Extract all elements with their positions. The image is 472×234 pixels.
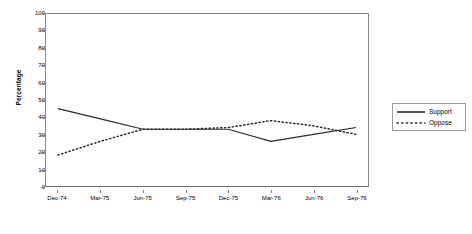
x-tick-mark xyxy=(314,190,315,193)
x-tick-label: Sep-76 xyxy=(333,195,381,202)
legend-item-support: Support xyxy=(396,107,462,117)
chart-legend: Support Oppose xyxy=(392,103,466,131)
legend-label-oppose: Oppose xyxy=(429,119,452,127)
x-tick-mark xyxy=(357,190,358,193)
x-tick-label: Dec-75 xyxy=(204,195,252,202)
x-tick-mark xyxy=(143,190,144,193)
x-tick-label: Jun-76 xyxy=(290,195,338,202)
solid-line-icon xyxy=(396,108,426,116)
x-tick-mark xyxy=(100,190,101,193)
x-tick-mark xyxy=(186,190,187,193)
legend-item-oppose: Oppose xyxy=(396,118,462,128)
line-chart-figure: Percentage 1009080706050403020100 Dec-74… xyxy=(0,0,472,234)
y-tick-mark xyxy=(41,187,45,188)
x-tick-mark xyxy=(228,190,229,193)
legend-label-support: Support xyxy=(429,108,452,116)
series-line-support xyxy=(58,109,356,142)
series-line-oppose xyxy=(58,121,356,155)
plot-area xyxy=(45,13,369,187)
x-tick-mark xyxy=(271,190,272,193)
x-tick-label: Sep-75 xyxy=(162,195,210,202)
x-tick-mark xyxy=(57,190,58,193)
y-axis-ticks: 1009080706050403020100 xyxy=(0,0,45,200)
dotted-line-icon xyxy=(396,119,426,127)
x-tick-label: Dec-74 xyxy=(33,195,81,202)
x-axis-labels: Dec-74Mar-75Jun-75Sep-75Dec-75Mar-76Jun-… xyxy=(45,190,369,210)
x-tick-label: Jun-75 xyxy=(119,195,167,202)
x-tick-label: Mar-75 xyxy=(76,195,124,202)
x-tick-label: Mar-76 xyxy=(247,195,295,202)
plot-lines xyxy=(46,14,368,186)
